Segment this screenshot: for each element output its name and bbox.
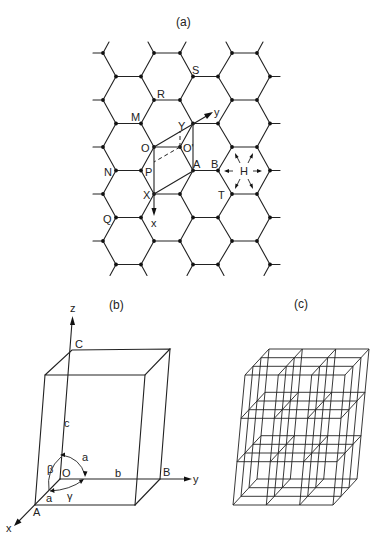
label-z: z	[70, 302, 76, 314]
cell-grid-3x3x3	[233, 349, 369, 505]
arrow-upleft-icon	[235, 153, 239, 159]
lattice-node	[230, 192, 234, 196]
lattice-node	[139, 216, 143, 220]
label-O: O	[141, 142, 150, 154]
lattice-node	[255, 239, 259, 243]
lattice-node	[178, 98, 182, 102]
lattice-node	[139, 169, 143, 173]
panel-b-label: (b)	[109, 298, 124, 312]
edge-front-right	[135, 375, 145, 505]
label-A: A	[193, 158, 201, 170]
label-H: H	[240, 165, 248, 177]
label-x: x	[6, 522, 12, 534]
label-N: N	[104, 166, 112, 178]
arrow-right-icon	[257, 169, 262, 173]
lattice-node	[191, 216, 195, 220]
lattice-node	[216, 263, 220, 267]
lattice-node	[255, 98, 259, 102]
lattice-node	[114, 263, 118, 267]
lattice-node	[152, 239, 156, 243]
hex-lattice	[93, 42, 280, 276]
lattice-node	[216, 122, 220, 126]
alpha-arrow-icon	[83, 471, 88, 477]
y-axis-arrow-icon	[204, 112, 213, 119]
y-axis-arrow-icon	[184, 477, 192, 482]
panel-c-label: (c)	[294, 297, 308, 311]
lattice-node	[268, 75, 272, 79]
lattice-node	[255, 192, 259, 196]
lattice-node	[230, 98, 234, 102]
lattice-node	[268, 169, 272, 173]
label-Q: Q	[103, 213, 112, 225]
lattice-node	[230, 51, 234, 55]
gamma-arrow2-icon	[79, 479, 84, 484]
lattice-node	[178, 51, 182, 55]
lattice-node	[101, 239, 105, 243]
lattice-node	[191, 263, 195, 267]
label-y-axis: y	[214, 106, 220, 118]
label-y: y	[193, 473, 199, 485]
lattice-node	[101, 98, 105, 102]
label-X: X	[143, 189, 151, 201]
label-b: b	[115, 467, 121, 479]
lattice-node	[178, 239, 182, 243]
label-O-prime: O'	[183, 142, 194, 154]
label-M: M	[131, 111, 140, 123]
edge-front-left	[35, 375, 45, 505]
lattice-node	[139, 263, 143, 267]
lattice-node	[178, 192, 182, 196]
arrow-left-icon	[224, 169, 229, 173]
label-R: R	[157, 88, 165, 100]
label-gamma: γ	[67, 490, 73, 502]
lattice-node	[114, 75, 118, 79]
lattice-node	[139, 75, 143, 79]
panel-b-unit-cell: (b) z C c a β O b B y γ a A x	[6, 298, 199, 534]
dashed-O'-P	[154, 147, 180, 162]
label-c: c	[64, 417, 70, 429]
figure: (a)	[0, 0, 385, 538]
label-S: S	[192, 64, 199, 76]
lattice-node	[216, 216, 220, 220]
panel-c-cell-stack: (c)	[233, 297, 369, 505]
lattice-node	[230, 239, 234, 243]
arrow-downright-icon	[249, 184, 253, 190]
lattice-node	[216, 75, 220, 79]
lattice-node	[268, 122, 272, 126]
lattice-node	[114, 169, 118, 173]
label-P: P	[145, 166, 152, 178]
lattice-node	[101, 145, 105, 149]
arrow-downleft-icon	[235, 184, 239, 190]
label-x-axis: x	[151, 217, 157, 229]
edge-bottom-right	[135, 479, 160, 505]
cell-top-face	[45, 349, 170, 375]
label-B: B	[211, 158, 218, 170]
label-B: B	[163, 466, 170, 478]
label-A: A	[33, 506, 41, 518]
lattice-node	[101, 192, 105, 196]
panel-a-label: (a)	[176, 15, 191, 29]
lattice-node	[114, 122, 118, 126]
label-alpha: a	[82, 451, 89, 463]
x-axis-arrow-icon	[152, 208, 157, 216]
lattice-node	[101, 51, 105, 55]
lattice-node	[255, 145, 259, 149]
label-Y: Y	[178, 120, 186, 132]
arrow-upright-icon	[249, 153, 253, 159]
label-a: a	[46, 492, 53, 504]
lattice-node	[230, 145, 234, 149]
label-beta: β	[47, 463, 53, 475]
label-T: T	[218, 189, 225, 201]
lattice-node	[152, 51, 156, 55]
lattice-node	[268, 263, 272, 267]
line-X-A	[154, 171, 193, 194]
label-C: C	[75, 338, 83, 350]
lattice-node	[255, 51, 259, 55]
edge-back-right	[160, 349, 170, 479]
label-O: O	[62, 467, 71, 479]
lattice-node	[114, 216, 118, 220]
lattice-node	[268, 216, 272, 220]
lattice-node	[152, 98, 156, 102]
z-axis-arrow-icon	[70, 316, 75, 325]
panel-a-honeycomb-lattice: (a)	[93, 15, 280, 276]
